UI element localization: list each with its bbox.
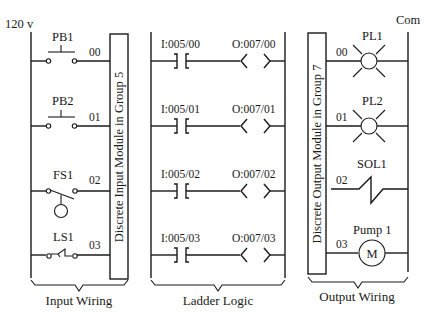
plc-wiring-diagram: 120 v Discrete Input Module in Group 5 P… — [0, 0, 432, 318]
svg-text:O:007/01: O:007/01 — [232, 103, 276, 115]
svg-text:I:005/01: I:005/01 — [161, 103, 200, 115]
output-device-pl2: PL2 01 — [326, 94, 408, 142]
svg-text:LS1: LS1 — [53, 230, 74, 244]
svg-text:I:005/03: I:005/03 — [161, 232, 200, 244]
svg-text:O:007/03: O:007/03 — [232, 232, 276, 244]
input-module-label: Discrete Input Module in Group 5 — [112, 72, 126, 242]
input-device-pb2: PB2 01 — [31, 94, 110, 128]
ladder-rung-3: I:005/03 O:007/03 — [151, 232, 285, 262]
ladder-rung-1: I:005/01 O:007/01 — [151, 103, 285, 133]
supply-label: 120 v — [5, 17, 34, 31]
output-module-label: Discrete Output Module in Group 7 — [310, 65, 324, 244]
svg-text:SOL1: SOL1 — [357, 157, 387, 171]
output-wiring-section: Com Discrete Output Module in Group 7 PL… — [308, 13, 421, 304]
ladder-rung-2: I:005/02 O:007/02 — [151, 168, 285, 198]
input-device-fs1: FS1 02 — [31, 168, 110, 218]
svg-text:PB2: PB2 — [52, 94, 74, 108]
ladder-brace — [151, 280, 285, 291]
ladder-logic-section: I:005/00 O:007/00 I:005/01 O:007/01 I:00… — [151, 32, 285, 308]
svg-text:O:007/02: O:007/02 — [232, 168, 276, 180]
output-device-pump1: Pump 1 03 M — [326, 223, 408, 266]
input-device-pb1: PB1 00 — [31, 30, 110, 63]
svg-text:PL1: PL1 — [362, 29, 383, 43]
svg-text:O:007/00: O:007/00 — [232, 38, 276, 50]
output-wiring-caption: Output Wiring — [319, 289, 395, 304]
output-device-pl1: PL1 00 — [326, 29, 408, 77]
svg-text:M: M — [366, 247, 377, 261]
svg-text:02: 02 — [89, 174, 101, 186]
output-device-sol1: SOL1 02 — [331, 157, 408, 203]
svg-text:Pump 1: Pump 1 — [353, 223, 392, 237]
svg-text:03: 03 — [336, 238, 348, 250]
svg-text:01: 01 — [336, 111, 348, 123]
svg-text:02: 02 — [336, 174, 348, 186]
input-wiring-section: 120 v Discrete Input Module in Group 5 P… — [5, 17, 128, 308]
svg-text:01: 01 — [89, 111, 101, 123]
svg-text:I:005/00: I:005/00 — [161, 38, 200, 50]
svg-text:I:005/02: I:005/02 — [161, 168, 200, 180]
input-device-ls1: LS1 03 — [31, 230, 110, 258]
svg-text:PL2: PL2 — [362, 94, 383, 108]
svg-text:03: 03 — [89, 239, 101, 251]
svg-text:00: 00 — [336, 46, 348, 58]
ladder-rung-0: I:005/00 O:007/00 — [151, 38, 285, 68]
common-label: Com — [396, 13, 421, 27]
ladder-logic-caption: Ladder Logic — [183, 293, 254, 308]
input-brace — [31, 280, 128, 291]
svg-text:PB1: PB1 — [52, 30, 74, 44]
svg-text:FS1: FS1 — [53, 168, 73, 182]
svg-text:00: 00 — [89, 46, 101, 58]
input-wiring-caption: Input Wiring — [46, 293, 113, 308]
output-brace — [308, 277, 408, 288]
